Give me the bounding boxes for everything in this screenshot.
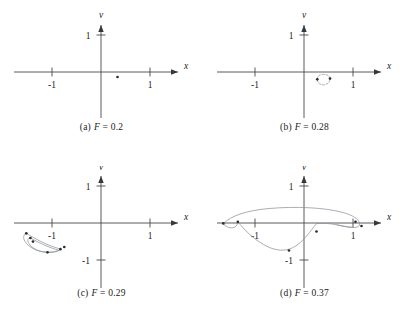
x-tick-label-pos1-d: 1	[351, 231, 356, 241]
y-tick-label-neg1-c: -1	[82, 256, 90, 266]
x-axis-arrow-a	[171, 69, 178, 74]
y-axis-label-d: v	[302, 166, 307, 172]
orbit-point	[63, 246, 66, 249]
orbit-c	[24, 232, 66, 254]
orbit-point	[59, 248, 62, 251]
x-axis-label-d: x	[386, 212, 392, 222]
y-axis-arrow-a	[98, 25, 103, 32]
caption-d-var: F	[292, 288, 301, 298]
plot-a: -1 1 1 x v	[0, 0, 203, 130]
y-axis-label-b: v	[302, 10, 307, 20]
x-tick-label-pos1-a: 1	[148, 80, 153, 90]
caption-b: (b)F = 0.28	[203, 122, 406, 132]
orbit-loop	[317, 74, 330, 85]
x-axis-arrow-b	[374, 69, 381, 74]
panel-a: -1 1 1 x v (a)F = 0.2	[0, 0, 203, 165]
caption-a-eq: = 0.2	[103, 122, 124, 132]
orbit-upper-arc	[224, 207, 360, 227]
caption-a-label: (a)	[80, 122, 91, 132]
panel-d: -1 1 1 -1 x v (d)F = 0.37	[203, 166, 406, 331]
orbit-point	[32, 240, 35, 243]
orbit-point	[236, 220, 239, 223]
orbit-a	[116, 76, 119, 79]
panel-b: -1 1 1 x v (b)F = 0.28	[203, 0, 406, 165]
orbit-b	[316, 74, 331, 85]
x-tick-label-neg1-c: -1	[48, 231, 56, 241]
y-tick-label-pos1-b: 1	[289, 31, 294, 41]
x-axis-label-c: x	[183, 212, 189, 222]
y-axis-arrow-c	[98, 176, 103, 183]
caption-a-var: F	[91, 122, 100, 132]
orbit-point	[315, 230, 318, 233]
x-tick-label-neg1-d: -1	[251, 231, 259, 241]
caption-c: (c)F = 0.29	[0, 288, 203, 298]
orbit-point	[222, 222, 225, 225]
plot-c: -1 1 1 -1 x v	[0, 166, 203, 296]
x-tick-label-neg1-a: -1	[48, 80, 56, 90]
y-axis-label-c: v	[99, 166, 104, 172]
plot-b: -1 1 1 x v	[203, 0, 406, 130]
orbit-point	[288, 249, 291, 252]
plot-d: -1 1 1 -1 x v	[203, 166, 406, 296]
x-tick-label-neg1-b: -1	[251, 80, 259, 90]
orbit-lower-arc	[238, 222, 317, 250]
y-axis-arrow-d	[301, 176, 306, 183]
x-axis-arrow-c	[171, 220, 178, 225]
caption-c-var: F	[89, 288, 98, 298]
figure-phase-portraits: -1 1 1 x v (a)F = 0.2 -1 1 1 x	[0, 0, 406, 331]
y-tick-label-pos1-c: 1	[86, 182, 91, 192]
y-axis-label-a: v	[99, 10, 104, 20]
panel-c: -1 1 1 -1 x v (c)F = 0.29	[0, 166, 203, 331]
x-axis-arrow-d	[374, 220, 381, 225]
orbit-point	[354, 220, 357, 223]
caption-a: (a)F = 0.2	[0, 122, 203, 132]
caption-b-eq: = 0.28	[303, 122, 329, 132]
y-tick-label-pos1-d: 1	[289, 182, 294, 192]
caption-c-eq: = 0.29	[100, 288, 126, 298]
orbit-point	[329, 77, 332, 80]
orbit-point	[25, 232, 28, 235]
caption-b-var: F	[292, 122, 301, 132]
caption-d-label: (d)	[280, 288, 292, 298]
orbit-point	[46, 251, 49, 254]
x-tick-label-pos1-c: 1	[148, 231, 153, 241]
caption-d-eq: = 0.37	[303, 288, 329, 298]
orbit-point	[360, 225, 363, 228]
orbit-point	[116, 76, 119, 79]
orbit-right-hook	[317, 223, 352, 227]
orbit-d	[222, 207, 363, 251]
orbit-point	[316, 78, 319, 81]
caption-b-label: (b)	[280, 122, 292, 132]
y-axis-arrow-b	[301, 25, 306, 32]
y-tick-label-pos1-a: 1	[86, 31, 91, 41]
x-axis-label-a: x	[183, 61, 189, 71]
caption-d: (d)F = 0.37	[203, 288, 406, 298]
y-tick-label-neg1-d: -1	[285, 256, 293, 266]
x-tick-label-pos1-b: 1	[351, 80, 356, 90]
caption-c-label: (c)	[77, 288, 88, 298]
x-axis-label-b: x	[386, 61, 392, 71]
orbit-point	[29, 237, 32, 240]
